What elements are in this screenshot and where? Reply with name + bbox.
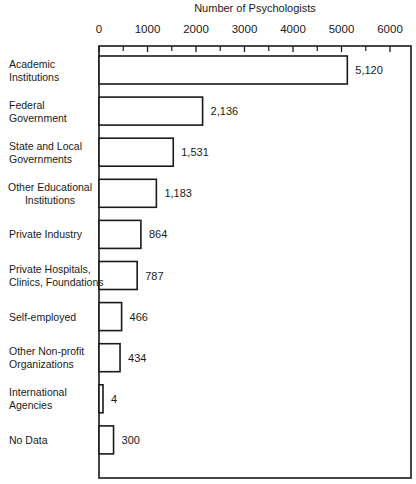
x-axis-ticks: 0100020003000400050006000 (96, 23, 403, 52)
bar-value-label: 1,183 (164, 187, 192, 199)
category-label: Institutions (25, 194, 75, 206)
bar (99, 344, 120, 372)
bar (99, 179, 156, 207)
category-label: No Data (9, 434, 48, 446)
bar (99, 303, 122, 331)
bar (99, 56, 347, 84)
bar-value-label: 5,120 (355, 64, 383, 76)
bar-value-label: 2,136 (211, 105, 239, 117)
bar-value-label: 4 (111, 393, 117, 405)
category-label: Federal (9, 99, 45, 111)
category-label: Governments (9, 153, 72, 165)
bars: 5,120AcademicInstitutions2,136FederalGov… (8, 56, 383, 454)
category-label: Institutions (9, 71, 59, 83)
x-tick-label: 0 (96, 23, 102, 35)
bar-value-label: 787 (145, 270, 163, 282)
category-label: International (9, 386, 67, 398)
x-axis-title: Number of Psychologists (194, 2, 316, 14)
x-tick-label: 1000 (135, 23, 161, 35)
category-label: Organizations (9, 358, 74, 370)
category-label: Academic (9, 58, 55, 70)
bar-chart: Number of Psychologists 0100020003000400… (0, 0, 416, 484)
category-label: Clinics, Foundations (9, 276, 104, 288)
category-label: Other Non-profit (9, 345, 84, 357)
category-label: State and Local (9, 140, 82, 152)
category-label: Self-employed (9, 311, 76, 323)
bar-value-label: 434 (128, 352, 146, 364)
bar (99, 97, 203, 125)
category-label: Agencies (9, 399, 52, 411)
category-label: Government (9, 112, 67, 124)
bar-value-label: 300 (122, 434, 140, 446)
x-tick-label: 6000 (377, 23, 403, 35)
bar-value-label: 466 (130, 311, 148, 323)
x-tick-label: 5000 (329, 23, 355, 35)
category-label: Private Hospitals, (9, 263, 91, 275)
category-label: Private Industry (9, 228, 83, 240)
bar-value-label: 864 (149, 228, 167, 240)
category-label: Other Educational (8, 181, 92, 193)
bar (99, 138, 173, 166)
bar (99, 385, 103, 413)
x-tick-label: 4000 (280, 23, 306, 35)
bar (99, 262, 137, 290)
x-tick-label: 3000 (232, 23, 258, 35)
bar-value-label: 1,531 (181, 146, 209, 158)
x-tick-label: 2000 (183, 23, 209, 35)
bar (99, 426, 114, 454)
bar (99, 220, 141, 248)
